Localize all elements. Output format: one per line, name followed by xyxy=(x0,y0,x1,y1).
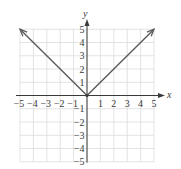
y-tick-label: 2 xyxy=(80,64,85,75)
y-tick-label: −5 xyxy=(74,156,85,167)
x-axis-label: x xyxy=(166,89,172,100)
x-tick-label: 4 xyxy=(138,98,143,109)
x-tick-label: −3 xyxy=(40,98,51,109)
x-tick-label: 1 xyxy=(98,98,103,109)
x-tick-label: −2 xyxy=(54,98,65,109)
y-tick-label: −1 xyxy=(74,103,85,114)
x-tick-label: −5 xyxy=(14,98,25,109)
y-axis-label: y xyxy=(82,8,88,19)
y-tick-label: −3 xyxy=(74,130,85,141)
x-axis-arrow-icon xyxy=(158,93,165,98)
y-tick-label: 5 xyxy=(80,24,85,35)
coordinate-plane: −5−4−3−2−11234554321−1−2−3−4−5 x y xyxy=(0,0,181,169)
y-axis-arrow-icon xyxy=(85,19,90,26)
y-tick-label: 3 xyxy=(80,50,85,61)
x-tick-label: −4 xyxy=(27,98,38,109)
vertex-point xyxy=(85,94,88,97)
x-tick-label: 3 xyxy=(125,98,130,109)
y-tick-label: −2 xyxy=(74,117,85,128)
y-tick-label: −4 xyxy=(74,143,85,154)
x-tick-label: 2 xyxy=(111,98,116,109)
y-tick-label: 1 xyxy=(80,77,85,88)
y-tick-label: 4 xyxy=(80,37,85,48)
x-tick-label: 5 xyxy=(152,98,157,109)
